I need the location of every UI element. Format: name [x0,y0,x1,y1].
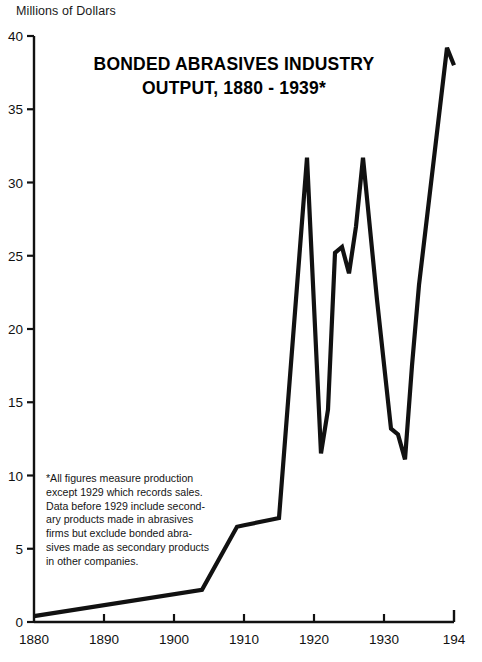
x-tick-label: 1920 [299,632,329,647]
chart-page: Millions of Dollars BONDED ABRASIVES IND… [0,0,482,662]
x-tick-label: 1930 [369,632,399,647]
y-tick-label: 25 [8,249,23,264]
y-tick-label: 10 [8,469,23,484]
y-tick-label: 30 [8,176,23,191]
output-line-series [34,48,454,616]
x-tick-label: 1900 [159,632,189,647]
y-tick-label: 40 [8,29,23,44]
x-tick-label: 1880 [19,632,49,647]
y-tick-label: 5 [15,542,23,557]
y-tick-label: 15 [8,395,23,410]
x-tick-label: 194 [443,632,466,647]
y-tick-label: 20 [8,322,23,337]
y-tick-label: 35 [8,102,23,117]
y-axis: 0510152025303540 [8,29,34,630]
x-tick-label: 1890 [89,632,119,647]
x-axis: 188018901900191019201930194 [19,610,466,647]
x-tick-label: 1910 [229,632,259,647]
plot-area: 0510152025303540 18801890190019101920193… [0,0,482,662]
y-tick-label: 0 [15,615,23,630]
